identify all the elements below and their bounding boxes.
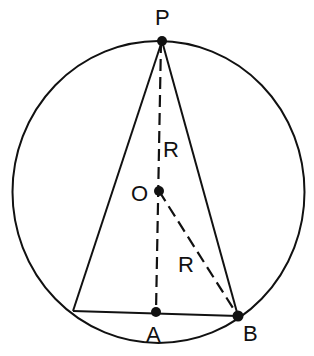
segment-PC: [73, 41, 162, 311]
label-B: B: [243, 321, 258, 346]
label-A: A: [146, 322, 161, 347]
point-P: [157, 36, 167, 46]
segment-PA-dashed: [156, 41, 161, 312]
circle-triangle-diagram: P O R R A B: [0, 0, 314, 356]
point-B: [233, 311, 244, 322]
point-O: [154, 186, 164, 196]
segment-PB: [162, 41, 238, 316]
label-O: O: [131, 181, 148, 206]
point-A: [151, 307, 161, 317]
label-P: P: [155, 5, 170, 30]
label-R-lower: R: [178, 252, 194, 277]
segment-OB-dashed: [159, 191, 238, 316]
label-R-upper: R: [163, 137, 179, 162]
